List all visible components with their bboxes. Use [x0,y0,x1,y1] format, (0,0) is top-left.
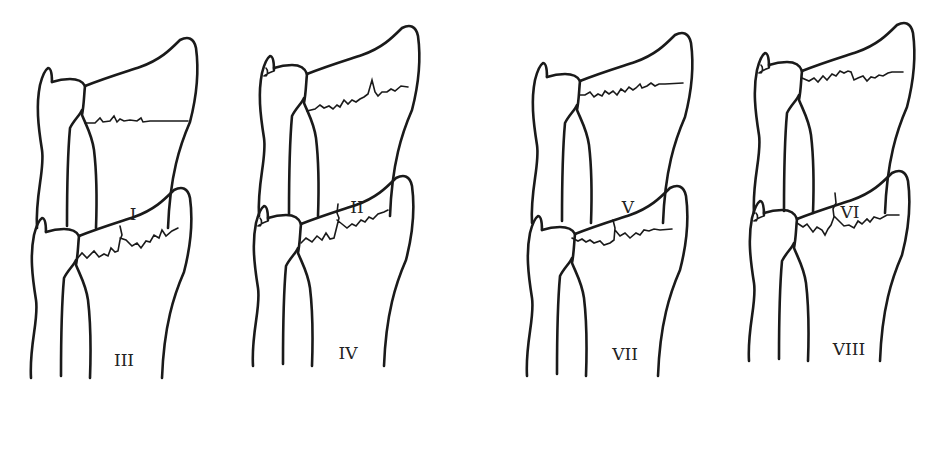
panel-iv: IV [253,176,414,366]
panel-v: V [532,33,693,223]
ulnar-styloid-fracture-line [264,68,274,76]
radioulnar-joint-line [82,86,97,228]
radius-outline [580,33,692,223]
radius-fracture-line [572,220,672,245]
radioulnar-joint-line [298,224,313,366]
ulnar-styloid-fracture-line [258,218,268,226]
fracture-classification-figure: IIIIIIIVVVIVIIVIII [0,0,950,475]
panel-label: VIII [832,339,865,359]
panel-ii: II [259,26,420,217]
radioulnar-joint-line [799,71,814,213]
ulna-head-outline [542,227,575,234]
ulna-inner-outline [283,248,298,364]
ulna-outline [37,68,52,228]
radius-outline [307,26,419,216]
radius-outline [85,38,197,228]
panel-i: I [37,38,198,228]
radioulnar-joint-line [794,219,809,361]
ulna-outline [749,201,764,361]
ulna-inner-outline [779,243,794,359]
ulna-inner-outline [67,110,82,226]
panel-label: VII [611,344,638,364]
ulna-inner-outline [61,260,76,376]
radius-fracture-line [802,71,903,82]
ulna-head-outline [46,229,79,236]
panel-label: I [130,204,137,224]
panel-iii: III [31,188,192,378]
radius-fracture-line [85,116,188,123]
panel-label: III [114,350,134,370]
ulna-head-outline [547,74,580,81]
ulnar-styloid-fracture-line [759,65,769,73]
radioulnar-joint-line [572,234,587,376]
ulna-outline [253,206,268,366]
panel-label: IV [339,343,359,363]
radius-fracture-line [580,83,683,97]
panel-vi: VI [754,23,915,222]
radius-fracture-line [307,80,408,111]
ulna-outline [259,56,274,216]
ulna-outline [754,53,769,213]
ulna-inner-outline [562,105,577,221]
ulna-head-outline [764,210,797,219]
ulnar-styloid-fracture-line [754,213,764,221]
ulna-outline [31,218,46,378]
ulna-head-outline [274,65,307,74]
ulna-inner-outline [557,258,572,374]
radioulnar-joint-line [304,74,319,216]
radius-outline [802,23,914,213]
ulna-head-outline [52,79,85,86]
ulna-head-outline [268,215,301,224]
panel-label: VI [840,202,860,222]
radioulnar-joint-line [577,81,592,223]
ulna-inner-outline [289,98,304,214]
ulna-head-outline [769,62,802,71]
ulna-outline [527,216,542,376]
ulna-inner-outline [784,95,799,211]
ulna-outline [532,63,547,223]
